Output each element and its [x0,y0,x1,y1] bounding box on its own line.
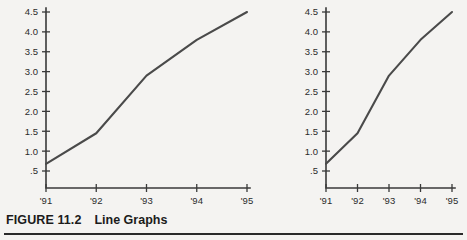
y-axis-tick-label: 1.5 [305,126,318,137]
figure-caption-block: FIGURE 11.2 Line Graphs [0,212,467,240]
narrow-y-axis-ticklabels: 4.54.03.53.02.52.01.51.0.5 [305,6,318,176]
y-axis-tick-label: 3.0 [305,66,318,77]
figure-number-label: FIGURE 11.2 [6,213,81,227]
wide-line-graph: 4.54.03.53.02.52.01.51.0.5 '91'92'93'94'… [0,0,270,212]
figure-title-label: Line Graphs [94,213,167,227]
narrow-line-graph: 4.54.03.53.02.52.01.51.0.5 '91'92'93'94'… [280,0,467,212]
narrow-data-line [326,12,452,164]
x-axis-tick-label: '91 [320,195,332,206]
narrow-axis-lines [326,8,455,188]
y-axis-tick-label: 4.5 [305,6,318,17]
y-axis-tick-label: 1.5 [25,126,38,137]
y-axis-tick-label: 2.0 [305,106,318,117]
y-axis-tick-label: 4.0 [305,26,318,37]
x-axis-tick-label: '94 [191,195,203,206]
y-axis-tick-label: 1.0 [305,146,318,157]
x-axis-tick-label: '93 [383,195,395,206]
y-axis-tick-label: .5 [310,165,318,176]
wide-axis-lines [46,8,250,188]
figure-page: 4.54.03.53.02.52.01.51.0.5 '91'92'93'94'… [0,0,467,240]
x-axis-tick-label: '93 [140,195,152,206]
x-axis-tick-label: '94 [414,195,426,206]
y-axis-tick-label: 4.5 [25,6,38,17]
narrow-x-axis-ticklabels: '91'92'93'94'95 [320,195,458,206]
y-axis-tick-label: 3.0 [25,66,38,77]
y-axis-tick-label: 2.5 [25,86,38,97]
y-axis-tick-label: .5 [30,165,38,176]
y-axis-tick-label: 2.0 [25,106,38,117]
x-axis-tick-label: '95 [446,195,458,206]
y-axis-tick-label: 4.0 [25,26,38,37]
x-axis-tick-label: '92 [90,195,102,206]
x-axis-tick-label: '92 [351,195,363,206]
narrow-line-graph-svg: 4.54.03.53.02.52.01.51.0.5 '91'92'93'94'… [280,0,467,212]
wide-data-line [46,12,247,164]
wide-y-axis-ticklabels: 4.54.03.53.02.52.01.51.0.5 [25,6,38,176]
narrow-axis-ticks [322,12,452,192]
wide-axis-ticks [42,12,247,192]
y-axis-tick-label: 1.0 [25,146,38,157]
y-axis-tick-label: 2.5 [305,86,318,97]
wide-x-axis-ticklabels: '91'92'93'94'95 [40,195,253,206]
caption-horizontal-rule [4,233,463,235]
figure-graphics-area: 4.54.03.53.02.52.01.51.0.5 '91'92'93'94'… [0,0,467,212]
y-axis-tick-label: 3.5 [305,46,318,57]
caption-row: FIGURE 11.2 Line Graphs [6,213,167,227]
x-axis-tick-label: '91 [40,195,52,206]
y-axis-tick-label: 3.5 [25,46,38,57]
x-axis-tick-label: '95 [241,195,253,206]
wide-line-graph-svg: 4.54.03.53.02.52.01.51.0.5 '91'92'93'94'… [0,0,270,212]
